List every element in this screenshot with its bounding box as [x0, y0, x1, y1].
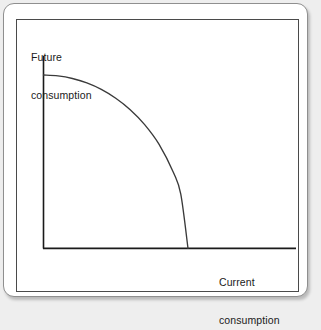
y-axis-label-line2: consumption — [31, 89, 92, 102]
x-axis-label-line1: Current — [219, 276, 280, 289]
y-axis-label: Future consumption — [31, 26, 92, 126]
figure-card: Future consumption Current consumption — [3, 3, 308, 297]
x-axis-label-line2: consumption — [219, 314, 280, 327]
x-axis-label: Current consumption — [219, 251, 280, 330]
y-axis-label-line1: Future — [31, 51, 92, 64]
